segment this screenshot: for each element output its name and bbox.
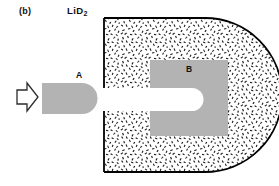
schematic-diagram bbox=[0, 0, 279, 186]
region-a-shape bbox=[42, 83, 97, 114]
material-subscript: 2 bbox=[84, 10, 88, 17]
figure-panel-b: (b) LiD2 A B bbox=[0, 0, 279, 186]
material-label: LiD2 bbox=[67, 6, 87, 17]
region-b-label: B bbox=[186, 65, 192, 74]
impact-arrow-icon bbox=[17, 83, 38, 111]
region-a-label: A bbox=[76, 71, 82, 80]
material-formula: LiD bbox=[67, 5, 84, 16]
cavity-channel bbox=[98, 88, 204, 111]
panel-label: (b) bbox=[19, 7, 31, 16]
